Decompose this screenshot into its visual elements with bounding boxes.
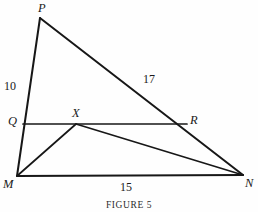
figure-container: P M N Q R X 10 17 15 FIGURE 5 (0, 0, 258, 212)
segment-MN (17, 175, 243, 176)
vertex-label-N: N (245, 177, 253, 190)
vertex-label-R: R (190, 114, 198, 127)
vertex-label-X: X (72, 107, 80, 120)
segment-XN (76, 124, 243, 175)
segment-MX (17, 124, 76, 176)
figure-caption: FIGURE 5 (0, 200, 258, 210)
length-label-PQ: 10 (4, 80, 16, 92)
vertex-label-M: M (3, 178, 13, 191)
vertex-label-P: P (38, 2, 46, 15)
length-label-MN: 15 (120, 181, 132, 193)
triangle-outline (17, 18, 243, 176)
length-label-PN: 17 (143, 73, 155, 85)
segment-PN (40, 18, 243, 175)
vertex-label-Q: Q (8, 115, 17, 128)
segment-PM (17, 18, 40, 176)
